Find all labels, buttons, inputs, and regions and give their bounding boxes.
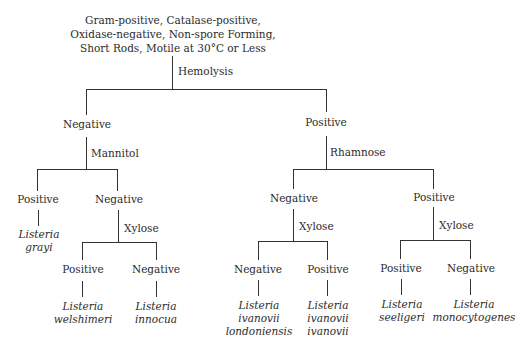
node-mannitol-positive: Positive — [17, 193, 58, 206]
connector-mannitol-pos — [37, 169, 38, 191]
connector-xylose2-stem — [293, 209, 294, 242]
connector-grayi — [38, 210, 39, 226]
node-hemolysis-positive: Positive — [305, 116, 346, 129]
connector-mannitol-neg — [117, 169, 118, 191]
connector-xylose3-branch — [400, 240, 471, 241]
node-rhamnose-positive: Positive — [413, 191, 454, 204]
connector-xylose3-pos — [400, 240, 401, 259]
node-xylose2-positive: Positive — [307, 263, 348, 276]
connector-hemolysis-neg — [86, 89, 87, 115]
test-xylose-mid: Xylose — [299, 220, 334, 233]
connector-root-stem — [172, 56, 173, 90]
connector-xylose1-pos — [82, 242, 83, 260]
connector-welshimeri — [82, 281, 83, 297]
connector-rhamnose-branch — [293, 169, 434, 170]
connector-xylose3-stem — [433, 207, 434, 241]
connector-xylose1-neg — [156, 242, 157, 260]
test-hemolysis: Hemolysis — [178, 65, 233, 78]
connector-ivanovii-ivanovii — [327, 280, 328, 296]
connector-mannitol-stem — [86, 137, 87, 170]
species-listeria-seeligeri: Listeria seeligeri — [379, 298, 425, 324]
connector-xylose2-neg — [258, 241, 259, 260]
test-mannitol: Mannitol — [91, 147, 139, 160]
connector-seeligeri — [401, 279, 402, 295]
species-listeria-grayi: Listeria grayi — [19, 228, 60, 254]
connector-hemolysis-pos — [326, 89, 327, 112]
connector-hemolysis-branch — [86, 89, 327, 90]
connector-xylose1-stem — [118, 210, 119, 243]
test-xylose-right: Xylose — [439, 219, 474, 232]
root-line-1: Gram-positive, Catalase-positive, — [70, 13, 275, 27]
species-listeria-welshimeri: Listeria welshimeri — [54, 300, 113, 326]
connector-monocytogenes — [470, 279, 471, 295]
connector-rhamnose-stem — [326, 136, 327, 170]
connector-rhamnose-pos — [433, 169, 434, 189]
node-hemolysis-negative: Negative — [63, 118, 111, 131]
species-listeria-monocytogenes: Listeria monocytogenes — [432, 298, 515, 324]
connector-mannitol-branch — [37, 169, 118, 170]
connector-xylose2-branch — [258, 241, 328, 242]
connector-xylose3-neg — [470, 240, 471, 259]
connector-xylose2-pos — [327, 241, 328, 260]
test-rhamnose: Rhamnose — [330, 146, 386, 159]
node-xylose2-negative: Negative — [234, 263, 282, 276]
node-mannitol-negative: Negative — [95, 193, 143, 206]
node-xylose1-positive: Positive — [62, 263, 103, 276]
species-listeria-innocua: Listeria innocua — [135, 300, 177, 326]
test-xylose-left: Xylose — [124, 222, 159, 235]
species-listeria-ivanovii-londoniensis: Listeria ivanovii londoniensis — [226, 299, 293, 338]
node-xylose3-positive: Positive — [380, 262, 421, 275]
node-xylose1-negative: Negative — [132, 263, 180, 276]
node-rhamnose-negative: Negative — [270, 192, 318, 205]
connector-rhamnose-neg — [293, 169, 294, 189]
root-characteristics: Gram-positive, Catalase-positive, Oxidas… — [70, 13, 275, 55]
node-xylose3-negative: Negative — [447, 262, 495, 275]
connector-xylose1-branch — [82, 242, 157, 243]
connector-innocua — [156, 281, 157, 297]
species-listeria-ivanovii-ivanovii: Listeria ivanovii ivanovii — [307, 299, 348, 338]
connector-ivanovii-londoniensis — [258, 280, 259, 296]
root-line-3: Short Rods, Motile at 30°C or Less — [70, 41, 275, 55]
root-line-2: Oxidase-negative, Non-spore Forming, — [70, 27, 275, 41]
